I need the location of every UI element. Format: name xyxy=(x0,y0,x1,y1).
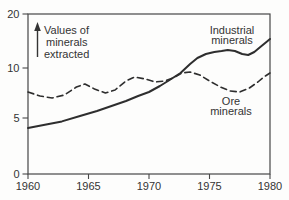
y-axis: 201050 xyxy=(7,8,28,180)
up-arrow-head-icon xyxy=(34,22,41,31)
y-tick-label: 10 xyxy=(7,62,19,74)
x-tick-label: 1975 xyxy=(197,180,221,192)
ore-label-line-2: minerals xyxy=(210,105,252,117)
industrial-minerals-label: Industrial minerals xyxy=(210,24,255,46)
ore-minerals-label: Ore minerals xyxy=(210,95,252,117)
y-tick-label: 20 xyxy=(7,8,19,20)
x-axis: 19601965197019751980 xyxy=(16,174,282,192)
x-tick-label: 1965 xyxy=(76,180,100,192)
annotation-line-2: minerals xyxy=(46,36,88,48)
industrial-label-line-2: minerals xyxy=(211,34,253,46)
x-tick-label: 1970 xyxy=(137,180,161,192)
chart-figure: 201050 19601965197019751980 Values of mi… xyxy=(0,0,289,200)
x-tick-label: 1980 xyxy=(258,180,282,192)
annotation-line-1: Values of xyxy=(44,24,90,36)
annotation-line-3: extracted xyxy=(44,48,89,60)
x-tick-label: 1960 xyxy=(16,180,40,192)
values-extracted-annotation: Values of minerals extracted xyxy=(34,22,90,60)
y-tick-label: 5 xyxy=(13,112,19,124)
minerals-line-chart: 201050 19601965197019751980 Values of mi… xyxy=(0,0,289,200)
y-tick-label: 0 xyxy=(13,168,19,180)
